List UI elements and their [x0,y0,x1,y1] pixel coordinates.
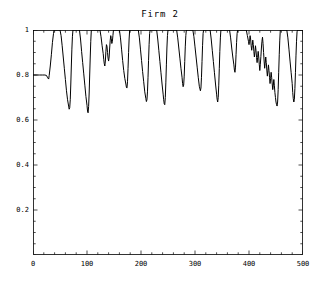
frame-rect [33,30,302,254]
y-tick-label: 0.8 [9,71,29,79]
plot-area [33,30,303,255]
plot-frame [33,30,302,254]
x-tick-label: 100 [73,260,101,268]
x-tick-label: 200 [127,260,155,268]
line-chart-svg [33,30,303,255]
y-tick-label: 1 [9,26,29,34]
y-tick-label: 0.4 [9,161,29,169]
chart-screenshot: Firm 2 0.20.40.60.81 0100200300400500 [0,0,320,289]
x-tick-label: 300 [181,260,209,268]
x-tick-label: 0 [19,260,47,268]
page-title: Firm 2 [0,9,320,19]
y-tick-label: 0.6 [9,116,29,124]
y-tick-label: 0.2 [9,206,29,214]
x-tick-label: 500 [289,260,317,268]
x-tick-label: 400 [235,260,263,268]
